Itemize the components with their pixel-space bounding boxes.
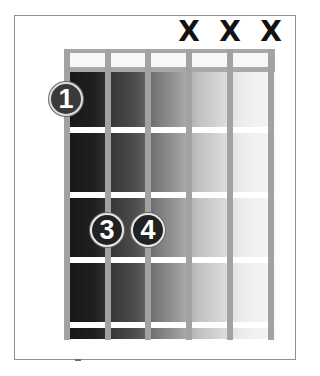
fretboard [64,72,275,339]
mute-marker-string-6: X [260,18,282,46]
string-4 [186,49,192,340]
nut [64,49,275,72]
fret-line-1 [64,127,275,133]
mute-marker-string-5: X [219,18,241,46]
finger-dot-1: 1 [49,82,83,116]
fret-line-3 [64,257,275,263]
mute-marker-string-4: X [178,18,200,46]
frame-tick-mark [75,359,81,361]
fret-line-2 [64,192,275,198]
string-3 [145,49,151,340]
finger-dot-4: 4 [131,213,165,247]
string-2 [105,49,111,340]
fret-line-4 [64,322,275,328]
finger-dot-3: 3 [90,213,124,247]
string-5 [227,49,233,340]
string-6 [268,49,274,340]
